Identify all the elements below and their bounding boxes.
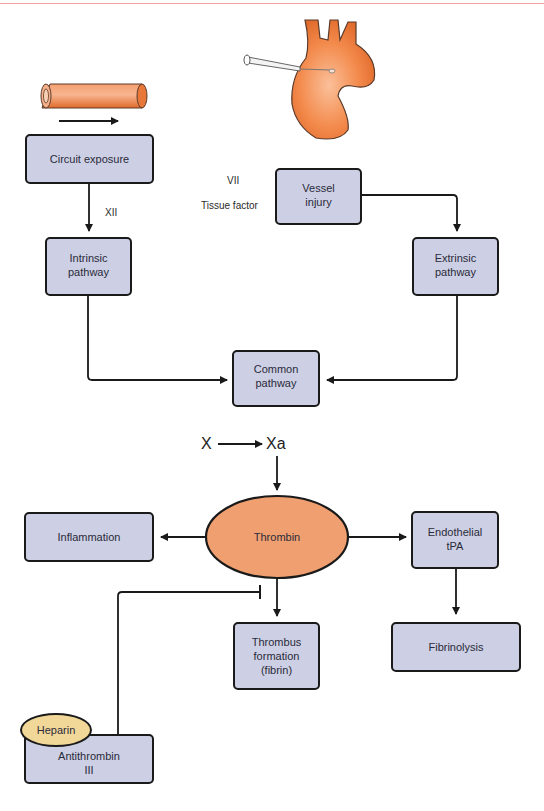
endothelial-label-line2: tPA (447, 540, 465, 552)
vessel-injury-box: Vessel injury (276, 169, 361, 224)
coagulation-diagram: Circuit exposure XII Intrinsic pathway V… (0, 0, 544, 811)
factor-xii-label: XII (105, 207, 117, 218)
aorta-with-needle-icon (244, 20, 375, 139)
common-pathway-label-line1: Common (254, 363, 299, 375)
inflammation-box: Inflammation (25, 513, 153, 561)
thrombus-label-line2: formation (254, 650, 300, 662)
thrombus-label-line1: Thrombus (252, 636, 302, 648)
vessel-injury-label-line2: injury (305, 196, 332, 208)
heparin-label: Heparin (37, 724, 76, 736)
thrombin-node: Thrombin (206, 496, 348, 578)
thrombus-label-line3: (fibrin) (261, 664, 292, 676)
thrombin-label: Thrombin (254, 531, 300, 543)
intrinsic-pathway-box: Intrinsic pathway (46, 238, 131, 295)
intrinsic-label-line2: pathway (68, 266, 109, 278)
common-pathway-box: Common pathway (233, 351, 319, 406)
inflammation-label: Inflammation (58, 531, 121, 543)
factor-x-label: X (201, 435, 212, 452)
heparin-node: Heparin (21, 714, 91, 746)
extrinsic-pathway-box: Extrinsic pathway (413, 238, 498, 295)
arrow-extrinsic-to-common (327, 296, 457, 380)
common-pathway-label-line2: pathway (256, 377, 297, 389)
circuit-exposure-label: Circuit exposure (50, 153, 129, 165)
tissue-factor-label: Tissue factor (201, 200, 259, 211)
extrinsic-label-line2: pathway (435, 266, 476, 278)
circuit-tube-icon (41, 84, 147, 108)
intrinsic-label-line1: Intrinsic (70, 252, 108, 264)
antithrombin-label-line1: Antithrombin (58, 750, 120, 762)
arrow-vessel-to-extrinsic (362, 195, 457, 231)
arrow-intrinsic-to-common (88, 296, 227, 380)
extrinsic-label-line1: Extrinsic (435, 252, 477, 264)
circuit-exposure-box: Circuit exposure (26, 135, 153, 183)
factor-vii-label: VII (227, 175, 239, 186)
endothelial-tpa-box: Endothelial tPA (412, 512, 498, 568)
factor-xa-label: Xa (266, 435, 286, 452)
fibrinolysis-label: Fibrinolysis (428, 641, 484, 653)
vessel-injury-label-line1: Vessel (302, 182, 334, 194)
fibrinolysis-box: Fibrinolysis (392, 623, 520, 671)
antithrombin-label-line2: III (84, 764, 93, 776)
endothelial-label-line1: Endothelial (428, 526, 482, 538)
thrombus-formation-box: Thrombus formation (fibrin) (234, 623, 319, 689)
